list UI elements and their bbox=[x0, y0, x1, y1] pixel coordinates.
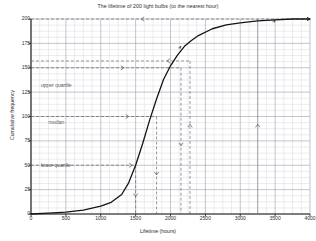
cumulative-frequency-chart: The lifetime of 200 light bulbs (to the … bbox=[0, 0, 316, 241]
curve-marker bbox=[178, 46, 181, 49]
plot-area bbox=[0, 0, 316, 241]
